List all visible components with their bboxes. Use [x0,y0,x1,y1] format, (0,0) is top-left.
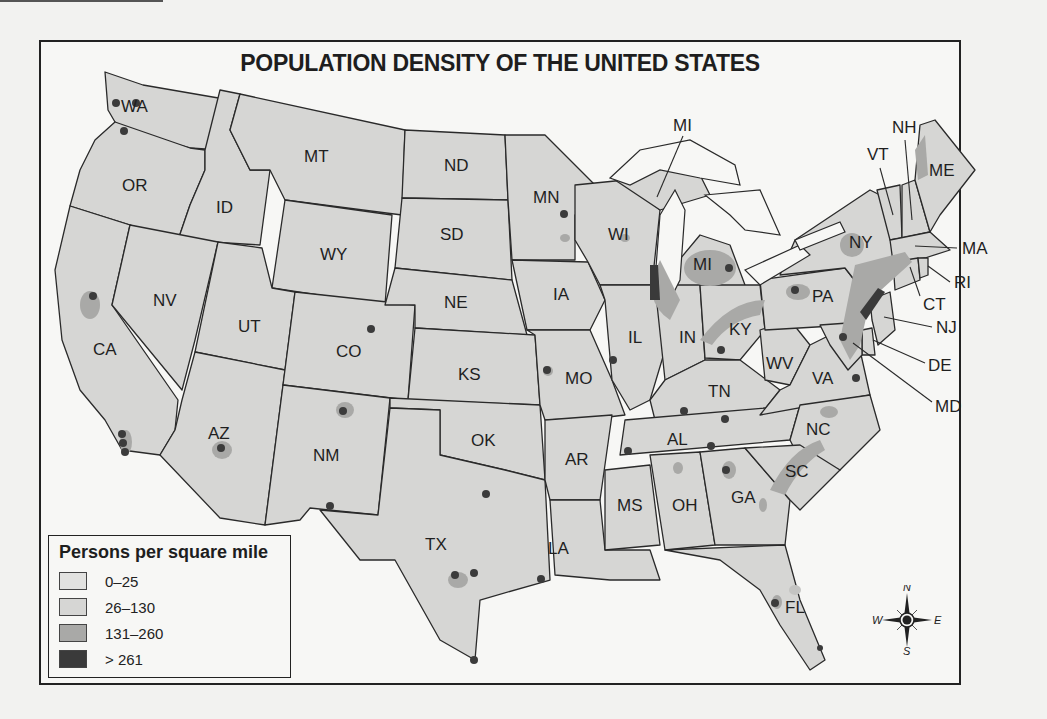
label-mn: MN [533,188,559,207]
compass-rose-icon: N S W E [872,585,942,655]
label-nd: ND [444,156,469,175]
label-mi: MI [693,255,712,274]
label-me: ME [929,161,955,180]
label-sd: SD [440,225,464,244]
legend: Persons per square mile 0–25 26–130 131–… [48,535,291,678]
label-il: IL [628,328,642,347]
label-ri: RI [954,273,971,292]
label-ms: MS [617,496,643,515]
compass-n: N [903,585,911,593]
legend-swatch [59,650,87,668]
label-mt: MT [304,147,329,166]
label-ks: KS [458,365,481,384]
legend-title: Persons per square mile [59,542,280,563]
label-ga: GA [731,488,756,507]
legend-label: 131–260 [105,625,163,642]
compass-s: S [903,645,911,655]
label-in: IN [679,328,696,347]
label-mo: MO [565,369,592,388]
label-nm: NM [313,446,339,465]
label-de: DE [928,356,952,375]
legend-item: 0–25 [59,568,280,594]
label-al: OH [672,496,698,515]
legend-swatch [59,572,87,590]
legend-item: 131–260 [59,620,280,646]
label-ca: CA [93,340,117,359]
lake-huron [705,190,780,235]
label-ny: NY [849,233,873,252]
label-ne: NE [444,293,468,312]
label-wa: WA [121,97,148,116]
label-md: MD [935,397,961,416]
legend-swatch [59,624,87,642]
label-ok: OK [471,431,496,450]
label-va: VA [812,369,834,388]
label-wi: WI [608,225,629,244]
legend-item: 26–130 [59,594,280,620]
label-nv: NV [153,291,177,310]
label-ct: CT [923,295,946,314]
label-wv: WV [766,354,794,373]
legend-label: 0–25 [105,573,138,590]
legend-label: 26–130 [105,599,155,616]
label-wy: WY [320,245,347,264]
label-tn: AL [667,430,688,449]
label-oh: KY [729,320,752,339]
map-title: POPULATION DENSITY OF THE UNITED STATES [0,50,1000,77]
legend-item: > 261 [59,646,280,672]
compass-e: E [934,614,942,626]
state-ri [918,258,928,278]
label-fl: FL [785,598,805,617]
label-nc: NC [806,420,831,439]
label-id: ID [216,198,233,217]
label-or: OR [122,176,148,195]
legend-swatch [59,598,87,616]
label-ut: UT [238,317,261,336]
label-ar: AR [565,450,589,469]
label-nj: NJ [936,318,957,337]
label-pa: PA [812,287,834,306]
legend-label: > 261 [105,651,143,668]
label-nh: NH [892,118,917,137]
label-tx: TX [425,535,447,554]
compass-w: W [872,614,884,626]
label-mi-upper: MI [673,116,692,135]
label-ky: TN [708,382,731,401]
label-az: AZ [208,424,230,443]
label-ma: MA [962,239,988,258]
label-co: CO [336,342,362,361]
label-vt: VT [867,145,889,164]
label-ia: IA [553,285,570,304]
label-sc: SC [785,462,809,481]
label-la: LA [548,539,569,558]
